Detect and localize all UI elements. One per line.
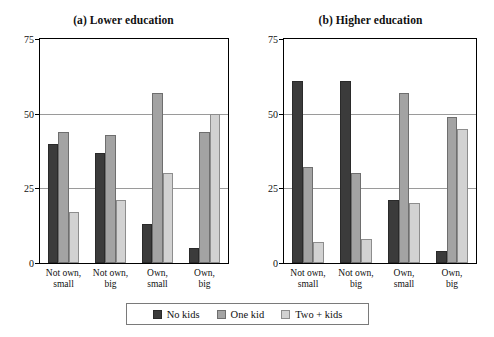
legend-swatch-icon (281, 310, 290, 319)
legend-label: One kid (231, 309, 265, 320)
bar (436, 251, 447, 263)
x-tick-label: Own,small (394, 268, 415, 290)
x-tick-label-line: big (442, 279, 463, 290)
bar (447, 117, 458, 263)
x-tick-label-line: small (46, 279, 81, 290)
x-tick-label-line: Not own, (338, 268, 373, 279)
bar (48, 144, 58, 263)
bar (163, 173, 173, 263)
legend-label: Two + kids (295, 309, 342, 320)
x-tick-label-line: Not own, (93, 268, 128, 279)
x-tick-label-line: Not own, (290, 268, 325, 279)
bar-group: Own,big (436, 39, 468, 263)
legend-item: One kid (217, 309, 265, 320)
x-tick-label: Own,small (147, 268, 168, 290)
chart-legend: No kidsOne kidTwo + kids (126, 303, 369, 325)
x-tick-label-line: Own, (394, 268, 415, 279)
x-tick-label-line: small (290, 279, 325, 290)
legend-item: Two + kids (281, 309, 342, 320)
bar (409, 203, 420, 263)
legend-swatch-icon (153, 310, 162, 319)
bar (313, 242, 324, 263)
y-tick-label-75: 75 (268, 34, 278, 45)
bar (199, 132, 209, 263)
bar (292, 81, 303, 263)
bar (351, 173, 362, 263)
bar (95, 153, 105, 264)
x-tick-label-line: big (194, 279, 215, 290)
legend-label: No kids (167, 309, 200, 320)
x-tick-label: Not own,small (46, 268, 81, 290)
x-tick-label: Own,big (194, 268, 215, 290)
bar (361, 239, 372, 263)
x-tick-label-line: big (338, 279, 373, 290)
bar (457, 129, 468, 263)
bar (399, 93, 410, 263)
plot-area-b: 0255075 Not own,smallNot own,bigOwn,smal… (283, 38, 477, 264)
y-tick-label-0: 0 (273, 258, 278, 269)
bar (388, 200, 399, 263)
x-tick-label: Not own,big (93, 268, 128, 290)
chart-panel-higher-education: (b) Higher education 0255075 Not own,sma… (247, 0, 494, 300)
bar-group: Not own,small (48, 39, 79, 263)
x-tick-label-line: small (147, 279, 168, 290)
x-tick-label-line: Not own, (46, 268, 81, 279)
legend-item: No kids (153, 309, 200, 320)
bar-group: Own,big (189, 39, 220, 263)
x-tick-label-line: small (394, 279, 415, 290)
bar-group: Not own,big (95, 39, 126, 263)
plot-area-a: 0255075 Not own,smallNot own,bigOwn,smal… (39, 38, 229, 264)
y-tick-label-75: 75 (24, 34, 34, 45)
bar (303, 167, 314, 263)
x-tick-label-line: Own, (194, 268, 215, 279)
bar (152, 93, 162, 263)
figure-canvas: (a) Lower education 0255075 Not own,smal… (0, 0, 494, 337)
bar (142, 224, 152, 263)
bar-layer-b: Not own,smallNot own,bigOwn,smallOwn,big (284, 39, 476, 263)
bar-layer-a: Not own,smallNot own,bigOwn,smallOwn,big (40, 39, 228, 263)
bar-group: Own,small (388, 39, 420, 263)
x-tick-label-line: big (93, 279, 128, 290)
bar (105, 135, 115, 263)
bar (189, 248, 199, 263)
bar (58, 132, 68, 263)
y-tick-label-25: 25 (268, 183, 278, 194)
x-tick-label: Own,big (442, 268, 463, 290)
chart-panel-lower-education: (a) Lower education 0255075 Not own,smal… (0, 0, 247, 300)
bar-group: Not own,small (292, 39, 324, 263)
bar (340, 81, 351, 263)
y-tick-label-50: 50 (268, 108, 278, 119)
panel-title-a: (a) Lower education (0, 14, 247, 26)
x-tick-label-line: Own, (442, 268, 463, 279)
y-tick-label-50: 50 (24, 108, 34, 119)
bar (69, 212, 79, 263)
bar-group: Not own,big (340, 39, 372, 263)
panel-title-b: (b) Higher education (247, 14, 494, 26)
y-tick-label-0: 0 (29, 258, 34, 269)
bar (210, 114, 220, 263)
y-tick-mark-0 (279, 263, 284, 264)
bar-group: Own,small (142, 39, 173, 263)
x-tick-label: Not own,big (338, 268, 373, 290)
x-tick-label: Not own,small (290, 268, 325, 290)
legend-swatch-icon (217, 310, 226, 319)
y-tick-label-25: 25 (24, 183, 34, 194)
x-tick-label-line: Own, (147, 268, 168, 279)
bar (116, 200, 126, 263)
y-tick-mark-0 (35, 263, 40, 264)
